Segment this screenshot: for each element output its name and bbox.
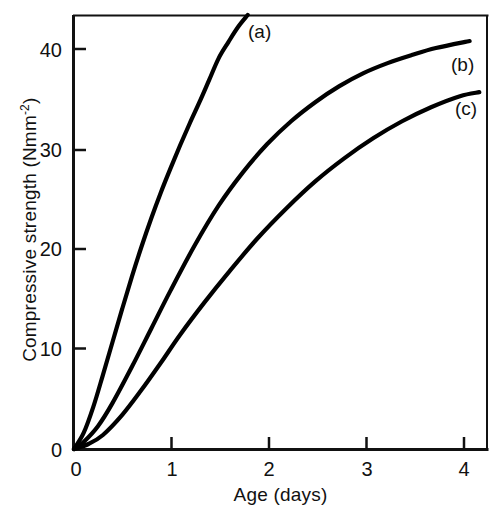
curve-b xyxy=(74,41,470,449)
plot-area xyxy=(0,0,503,519)
tick-marks xyxy=(74,49,464,449)
chart-figure: Compressive strength (Nmm-2) Age (days) … xyxy=(0,0,503,519)
curve-a xyxy=(74,15,248,449)
data-curves xyxy=(74,15,479,449)
axes-frame xyxy=(73,15,489,451)
